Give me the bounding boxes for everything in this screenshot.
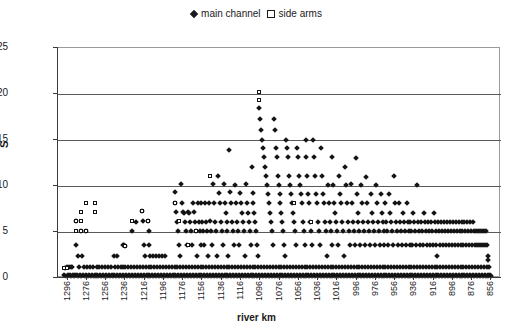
data-point-main-channel bbox=[254, 228, 260, 234]
data-point-main-channel bbox=[333, 210, 339, 216]
y-tick-mark-15 bbox=[53, 139, 57, 140]
x-tick-mark-1016 bbox=[336, 277, 337, 280]
data-point-main-channel bbox=[212, 219, 218, 225]
data-point-main-channel bbox=[147, 242, 153, 248]
data-point-main-channel bbox=[275, 173, 281, 179]
legend-item-side-arms: side arms bbox=[267, 8, 322, 19]
x-tick-mark-896 bbox=[452, 277, 453, 280]
data-point-main-channel bbox=[328, 228, 334, 234]
data-point-main-channel bbox=[338, 201, 344, 207]
data-point-side-arms bbox=[177, 219, 181, 223]
data-point-main-channel bbox=[364, 201, 370, 207]
data-point-main-channel bbox=[213, 228, 219, 234]
data-point-main-channel bbox=[330, 155, 336, 161]
data-point-main-channel bbox=[309, 242, 315, 248]
data-point-main-channel bbox=[302, 242, 308, 248]
data-point-main-channel bbox=[378, 191, 384, 197]
data-point-side-arms bbox=[186, 243, 190, 247]
data-point-main-channel bbox=[269, 228, 275, 234]
legend-label-main-channel: main channel bbox=[201, 8, 260, 19]
data-point-main-channel bbox=[359, 182, 365, 188]
x-tick-label-1256: 1256 bbox=[100, 281, 110, 301]
x-tick-mark-1216 bbox=[144, 277, 145, 280]
data-point-main-channel bbox=[411, 210, 417, 216]
data-point-main-channel bbox=[404, 201, 410, 207]
data-point-main-channel bbox=[246, 219, 252, 225]
data-point-side-arms bbox=[194, 229, 198, 233]
data-point-side-arms bbox=[130, 219, 134, 223]
data-point-main-channel bbox=[285, 155, 291, 161]
data-point-main-channel bbox=[172, 190, 178, 196]
x-tick-label-1276: 1276 bbox=[81, 281, 91, 301]
data-point-main-channel bbox=[263, 173, 269, 179]
data-point-side-arms bbox=[257, 98, 261, 102]
x-tick-label-1176: 1176 bbox=[177, 281, 187, 300]
data-point-main-channel bbox=[331, 182, 337, 188]
x-tick-mark-1096 bbox=[259, 277, 260, 280]
data-point-main-channel bbox=[337, 191, 343, 197]
data-point-main-channel bbox=[374, 201, 380, 207]
data-point-main-channel bbox=[194, 253, 200, 259]
data-point-main-channel bbox=[391, 173, 397, 179]
x-tick-mark-876 bbox=[471, 277, 472, 280]
x-tick-mark-1176 bbox=[182, 277, 183, 280]
data-point-side-arms bbox=[309, 220, 313, 224]
x-tick-mark-1236 bbox=[124, 277, 125, 280]
data-point-main-channel bbox=[179, 201, 185, 207]
data-point-main-channel bbox=[73, 242, 79, 248]
data-point-main-channel bbox=[487, 264, 493, 270]
data-point-main-channel bbox=[293, 242, 299, 248]
data-point-main-channel bbox=[267, 210, 273, 216]
data-point-main-channel bbox=[202, 242, 208, 248]
x-tick-label-1296: 1296 bbox=[62, 281, 72, 301]
x-tick-label-1196: 1196 bbox=[158, 281, 168, 300]
data-point-main-channel bbox=[237, 191, 243, 197]
x-tick-label-1156: 1156 bbox=[196, 281, 206, 300]
data-point-main-channel bbox=[259, 137, 265, 143]
x-tick-label-1236: 1236 bbox=[119, 281, 129, 301]
x-tick-mark-1136 bbox=[221, 277, 222, 280]
data-point-main-channel bbox=[383, 201, 389, 207]
data-point-side-arms bbox=[173, 201, 177, 205]
data-point-main-channel bbox=[342, 164, 348, 170]
data-point-main-channel bbox=[286, 173, 292, 179]
data-point-main-channel bbox=[236, 242, 242, 248]
x-tick-mark-1256 bbox=[105, 277, 106, 280]
open-square-icon bbox=[267, 10, 275, 18]
y-tick-mark-20 bbox=[53, 93, 57, 94]
data-point-main-channel bbox=[363, 174, 369, 180]
data-point-main-channel bbox=[349, 201, 355, 207]
data-point-main-channel bbox=[242, 253, 248, 259]
x-tick-label-976: 976 bbox=[370, 281, 380, 296]
x-tick-label-996: 996 bbox=[351, 281, 361, 296]
data-point-side-arms bbox=[93, 201, 97, 205]
x-tick-label-956: 956 bbox=[389, 281, 399, 296]
x-tick-mark-976 bbox=[375, 277, 376, 280]
data-point-main-channel bbox=[486, 257, 492, 263]
data-point-main-channel bbox=[272, 127, 278, 133]
data-point-main-channel bbox=[268, 219, 274, 225]
x-tick-label-856: 856 bbox=[485, 281, 495, 296]
x-tick-label-876: 876 bbox=[466, 281, 476, 296]
data-point-main-channel bbox=[255, 242, 261, 248]
data-point-main-channel bbox=[301, 228, 307, 234]
x-tick-mark-1296 bbox=[67, 277, 68, 280]
plot-area bbox=[57, 47, 500, 277]
x-tick-mark-1056 bbox=[298, 277, 299, 280]
data-point-main-channel bbox=[129, 228, 135, 234]
data-point-main-channel bbox=[290, 210, 296, 216]
data-point-main-channel bbox=[278, 201, 284, 207]
x-tick-label-1076: 1076 bbox=[274, 281, 284, 301]
y-tick-mark-10 bbox=[53, 185, 57, 186]
data-point-main-channel bbox=[264, 182, 270, 188]
data-point-side-arms bbox=[292, 201, 296, 205]
data-point-main-channel bbox=[240, 219, 246, 225]
data-point-main-channel bbox=[258, 127, 264, 133]
data-point-main-channel bbox=[216, 191, 222, 197]
y-tick-mark-5 bbox=[53, 231, 57, 232]
data-point-main-channel bbox=[177, 253, 183, 259]
data-point-main-channel bbox=[318, 145, 324, 151]
x-tick-mark-1076 bbox=[279, 277, 280, 280]
data-point-main-channel bbox=[218, 219, 224, 225]
filled-diamond-icon bbox=[190, 9, 198, 17]
